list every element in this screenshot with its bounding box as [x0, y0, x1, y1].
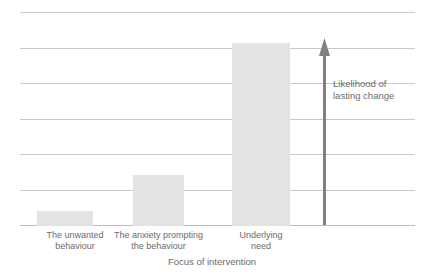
gridline-3 — [20, 119, 415, 120]
bar-the-anxiety-prompting-the-behaviour — [133, 175, 184, 226]
annotation-line-1: Likelihood of — [333, 78, 421, 90]
gridline-2 — [20, 154, 415, 155]
x-label-line-1: Underlying — [222, 230, 300, 241]
likelihood-annotation: Likelihood of lasting change — [333, 78, 421, 101]
x-label-line-2: the behaviour — [96, 241, 221, 252]
x-label-the-anxiety-prompting-the-behaviour: The anxiety prompting the behaviour — [96, 230, 221, 252]
gridline-5 — [20, 48, 415, 49]
x-label-line-1: The anxiety prompting — [96, 230, 221, 241]
bar-underlying-need — [232, 43, 290, 226]
gridline-1 — [20, 190, 415, 191]
bar-chart: Likelihood of lasting change The unwante… — [0, 0, 424, 274]
x-axis-title: Focus of intervention — [0, 256, 424, 267]
gridline-6 — [20, 12, 415, 13]
plot-area — [20, 12, 415, 226]
annotation-line-2: lasting change — [333, 90, 421, 102]
x-label-line-2: need — [222, 241, 300, 252]
x-label-underlying-need: Underlying need — [222, 230, 300, 252]
bar-the-unwanted-behaviour — [37, 211, 93, 226]
